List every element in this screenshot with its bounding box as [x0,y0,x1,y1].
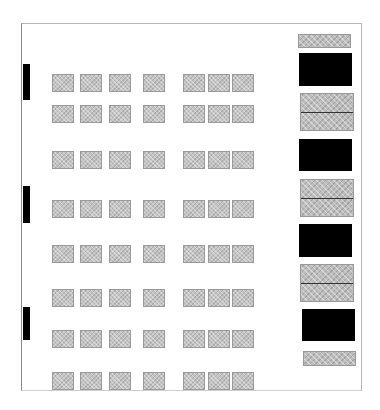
seat-block[interactable] [52,330,74,348]
seat-block[interactable] [208,200,230,218]
seat-block[interactable] [143,330,165,348]
seat-block[interactable] [183,372,205,390]
seat-block[interactable] [208,245,230,263]
seat-block[interactable] [183,330,205,348]
seat-block[interactable] [232,200,254,218]
seat-block[interactable] [109,289,131,307]
seat-block[interactable] [183,200,205,218]
seat-block[interactable] [183,245,205,263]
solid-block[interactable] [299,224,352,257]
seat-block[interactable] [52,200,74,218]
seat-block[interactable] [109,330,131,348]
seat-block[interactable] [52,74,74,92]
seat-block[interactable] [109,105,131,123]
seat-block[interactable] [208,330,230,348]
seat-block[interactable] [52,289,74,307]
seat-block[interactable] [109,372,131,390]
hatched-block[interactable] [298,34,351,48]
seat-block[interactable] [232,74,254,92]
seat-block[interactable] [208,372,230,390]
seat-block[interactable] [232,151,254,169]
seat-block[interactable] [208,151,230,169]
seat-block[interactable] [143,289,165,307]
solid-block[interactable] [302,309,355,341]
wall-bar [23,64,30,100]
seat-block[interactable] [232,245,254,263]
seat-block[interactable] [109,74,131,92]
seat-block[interactable] [143,74,165,92]
seat-block[interactable] [80,289,102,307]
seat-block[interactable] [232,289,254,307]
hatched-block[interactable] [300,93,354,131]
seat-block[interactable] [80,330,102,348]
wall-bar [23,186,30,223]
seat-block[interactable] [143,151,165,169]
seat-block[interactable] [143,372,165,390]
seat-block[interactable] [80,245,102,263]
block-divider [301,112,353,113]
seat-block[interactable] [232,105,254,123]
seat-block[interactable] [109,151,131,169]
seat-block[interactable] [52,105,74,123]
seat-block[interactable] [183,74,205,92]
seat-block[interactable] [208,105,230,123]
seat-block[interactable] [232,330,254,348]
block-divider [301,198,353,199]
solid-block[interactable] [299,139,352,171]
seat-block[interactable] [183,105,205,123]
seat-block[interactable] [109,245,131,263]
hatched-block[interactable] [303,351,356,366]
seat-block[interactable] [183,151,205,169]
seat-block[interactable] [208,74,230,92]
hatched-block[interactable] [300,179,354,217]
seat-block[interactable] [80,74,102,92]
seat-block[interactable] [80,372,102,390]
seat-block[interactable] [52,151,74,169]
seat-block[interactable] [183,289,205,307]
seat-block[interactable] [109,200,131,218]
hatched-block[interactable] [300,264,354,302]
seat-block[interactable] [52,245,74,263]
solid-block[interactable] [299,53,352,86]
seat-block[interactable] [208,289,230,307]
seat-block[interactable] [143,245,165,263]
seat-block[interactable] [143,200,165,218]
seat-block[interactable] [80,200,102,218]
seat-block[interactable] [232,372,254,390]
seat-block[interactable] [80,105,102,123]
seat-block[interactable] [143,105,165,123]
block-divider [301,283,353,284]
seat-block[interactable] [52,372,74,390]
wall-bar [23,307,30,340]
seat-block[interactable] [80,151,102,169]
